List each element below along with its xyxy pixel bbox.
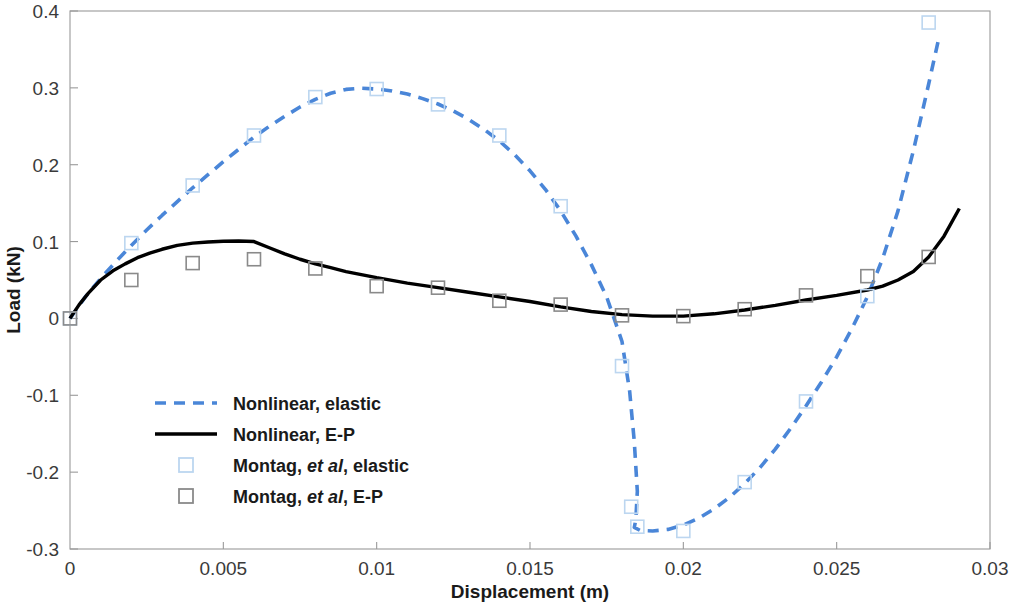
legend-entry-label: Montag, et al, E-P xyxy=(233,487,383,507)
y-tick-label: 0.4 xyxy=(33,1,60,22)
chart-canvas: 00.0050.010.0150.020.0250.03 0.40.30.20.… xyxy=(0,0,1014,608)
y-tick-label: -0.1 xyxy=(26,385,59,406)
x-tick-label: 0.02 xyxy=(665,558,702,579)
x-tick-label: 0.005 xyxy=(200,558,248,579)
y-axis-title: Load (kN) xyxy=(3,246,24,334)
y-tick-label: 0 xyxy=(48,308,59,329)
legend-entry-label: Nonlinear, E-P xyxy=(233,425,355,445)
x-tick-label: 0.025 xyxy=(813,558,861,579)
legend-entry-label: Nonlinear, elastic xyxy=(233,394,381,414)
x-axis-title: Displacement (m) xyxy=(451,581,609,602)
load-displacement-chart: 00.0050.010.0150.020.0250.03 0.40.30.20.… xyxy=(0,0,1014,608)
y-tick-label: 0.1 xyxy=(33,232,59,253)
x-tick-label: 0 xyxy=(65,558,76,579)
y-tick-label: -0.2 xyxy=(26,462,59,483)
y-tick-label: 0.2 xyxy=(33,155,59,176)
x-tick-label: 0.015 xyxy=(506,558,554,579)
y-tick-label: 0.3 xyxy=(33,78,59,99)
y-tick-label: -0.3 xyxy=(26,539,59,560)
legend-entry-label: Montag, et al, elastic xyxy=(233,456,409,476)
x-tick-label: 0.01 xyxy=(358,558,395,579)
x-tick-label: 0.03 xyxy=(972,558,1009,579)
